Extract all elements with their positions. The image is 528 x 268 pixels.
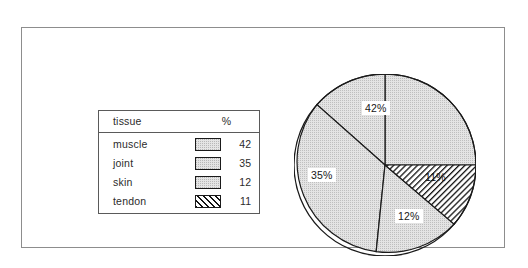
- pie-label-tendon: 11%: [425, 171, 446, 183]
- screenshot-canvas: tissue % muscle 42 joint 35 skin 12: [0, 0, 528, 268]
- legend-header-category: tissue: [113, 115, 142, 127]
- pie-chart: 42% 35% 12% 11%: [294, 74, 476, 256]
- legend-body: muscle 42 joint 35 skin 12 tendon: [99, 133, 259, 211]
- legend-row-muscle: muscle 42: [99, 135, 259, 154]
- legend-label-joint: joint: [113, 154, 133, 173]
- legend-value-joint: 35: [233, 154, 251, 173]
- legend-label-tendon: tendon: [113, 192, 146, 211]
- pie-label-skin: 12%: [395, 209, 423, 223]
- pie-label-muscle: 42%: [362, 101, 390, 115]
- legend-swatch-muscle-stipple-icon: [195, 138, 221, 151]
- legend-swatch-joint-stipple-icon: [195, 157, 221, 170]
- legend-label-skin: skin: [113, 173, 132, 192]
- legend-swatch-skin-stipple-icon: [195, 176, 221, 189]
- legend-header-row: tissue %: [99, 111, 259, 133]
- legend-value-tendon: 11: [233, 192, 251, 211]
- legend-label-muscle: muscle: [113, 135, 147, 154]
- figure-frame: tissue % muscle 42 joint 35 skin 12: [21, 27, 505, 248]
- legend-row-tendon: tendon 11: [99, 192, 259, 211]
- legend-table: tissue % muscle 42 joint 35 skin 12: [98, 110, 260, 214]
- legend-row-skin: skin 12: [99, 173, 259, 192]
- legend-header-percent: %: [222, 115, 231, 127]
- legend-swatch-tendon-hatch-icon: [195, 195, 221, 208]
- legend-value-skin: 12: [233, 173, 251, 192]
- pie-slice-muscle: [385, 74, 476, 165]
- pie-label-joint: 35%: [308, 168, 336, 182]
- legend-row-joint: joint 35: [99, 154, 259, 173]
- legend-value-muscle: 42: [233, 135, 251, 154]
